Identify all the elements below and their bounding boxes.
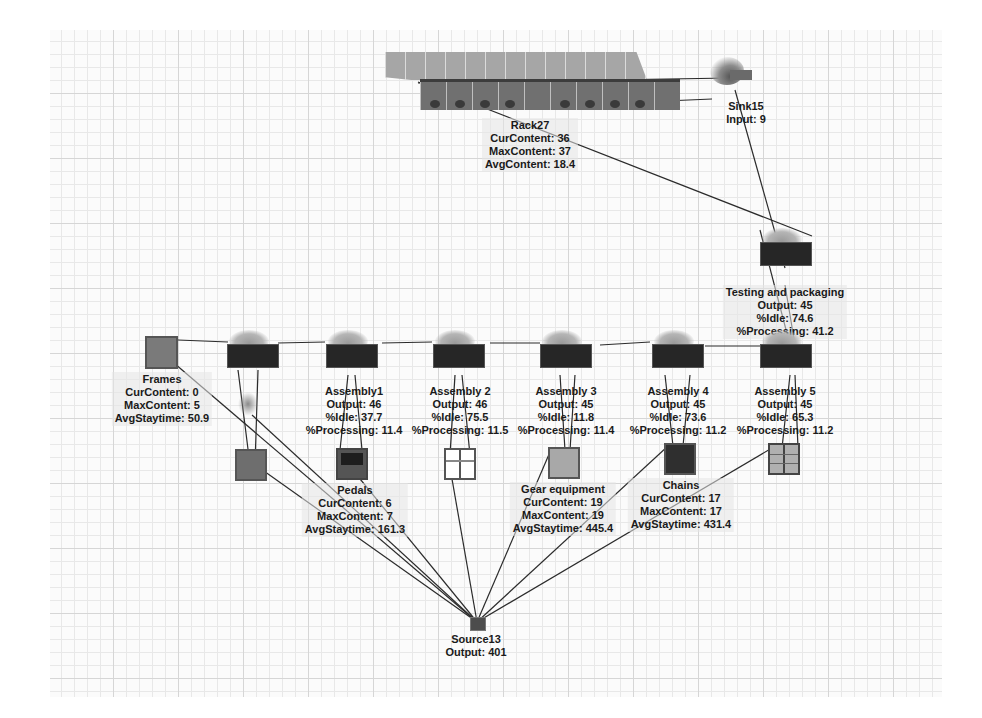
queue-node-unlabeled[interactable] (235, 449, 267, 481)
node-stat: Output: 401 (445, 646, 506, 659)
frames-label: Frames CurContent: 0 MaxContent: 5 AvgSt… (112, 372, 212, 426)
node-stat: MaxContent: 5 (115, 399, 209, 412)
queue-content (341, 453, 363, 465)
chains-label: Chains CurContent: 17 MaxContent: 17 Avg… (628, 478, 734, 532)
sink-label: Sink15 Input: 9 (723, 99, 769, 127)
processor-body (326, 344, 378, 368)
node-name: Assembly1 (306, 385, 403, 398)
processor-body (540, 344, 592, 368)
assembly2-queue-node[interactable] (444, 448, 476, 480)
node-stat: %Idle: 11.8 (518, 411, 615, 424)
rack-wheel-icon (635, 100, 645, 108)
rack-node[interactable] (385, 52, 655, 114)
node-stat: CurContent: 19 (513, 496, 613, 509)
operator-icon (238, 392, 258, 416)
node-stat: %Idle: 73.6 (630, 411, 727, 424)
node-stat: CurContent: 0 (115, 386, 209, 399)
source-label: Source13 Output: 401 (442, 632, 509, 660)
node-stat: %Processing: 11.5 (412, 424, 509, 437)
rack-wheel-icon (585, 100, 595, 108)
assembly3-node[interactable] (540, 330, 592, 370)
sink-node[interactable] (710, 57, 754, 87)
node-name: Assembly 5 (737, 385, 834, 398)
processor-body (760, 344, 812, 368)
rack-wheel-icon (480, 100, 490, 108)
node-name: Assembly 3 (518, 385, 615, 398)
node-name: Gear equipment (513, 483, 613, 496)
rack-wheel-icon (430, 100, 440, 108)
node-stat: Output: 45 (726, 299, 844, 312)
node-stat: %Processing: 11.4 (518, 424, 615, 437)
node-stat: MaxContent: 17 (631, 505, 731, 518)
queue-divider (770, 454, 798, 455)
queue-divider (459, 450, 461, 478)
node-stat: %Idle: 37.7 (306, 411, 403, 424)
assembly2-node[interactable] (433, 330, 485, 370)
processor-body (760, 242, 812, 266)
node-name: Frames (115, 373, 209, 386)
node-stat: MaxContent: 19 (513, 509, 613, 522)
rack-shelves (385, 52, 647, 80)
queue-divider (446, 460, 474, 462)
node-name: Chains (631, 479, 731, 492)
node-name: Source13 (445, 633, 506, 646)
node-name: Sink15 (726, 100, 766, 113)
assembly4-label: Assembly 4 Output: 45 %Idle: 73.6 %Proce… (627, 384, 730, 438)
testing-packaging-node[interactable] (760, 228, 812, 268)
node-name: Testing and packaging (726, 286, 844, 299)
node-stat: %Processing: 11.2 (737, 424, 834, 437)
node-name: Assembly 4 (630, 385, 727, 398)
assembly5-label: Assembly 5 Output: 45 %Idle: 65.3 %Proce… (734, 384, 837, 438)
node-stat: Output: 46 (412, 398, 509, 411)
node-stat: Input: 9 (726, 113, 766, 126)
assembly3-label: Assembly 3 Output: 45 %Idle: 11.8 %Proce… (515, 384, 618, 438)
processor-body (652, 344, 704, 368)
queue-divider (770, 463, 798, 464)
source-node[interactable] (470, 617, 486, 631)
pedals-label: Pedals CurContent: 6 MaxContent: 7 AvgSt… (302, 483, 408, 537)
assembly5-node[interactable] (760, 330, 812, 370)
queue-divider (783, 445, 785, 473)
node-stat: %Idle: 65.3 (737, 411, 834, 424)
node-name: Pedals (305, 484, 405, 497)
node-stat: %Processing: 11.2 (630, 424, 727, 437)
assembly1-label: Assembly1 Output: 46 %Idle: 37.7 %Proces… (303, 384, 406, 438)
frames-node[interactable] (145, 336, 178, 369)
node-stat: CurContent: 36 (485, 132, 575, 145)
node-stat: Output: 45 (518, 398, 615, 411)
node-stat: %Idle: 75.5 (412, 411, 509, 424)
node-stat: %Processing: 11.4 (306, 424, 403, 437)
node-stat: AvgContent: 18.4 (485, 158, 575, 171)
assembly2-label: Assembly 2 Output: 46 %Idle: 75.5 %Proce… (409, 384, 512, 438)
pedals-node[interactable] (336, 448, 368, 480)
node-stat: AvgStaytime: 50.9 (115, 412, 209, 425)
node-name: Rack27 (485, 119, 575, 132)
node-stat: AvgStaytime: 431.4 (631, 518, 731, 531)
gear-equipment-label: Gear equipment CurContent: 19 MaxContent… (510, 482, 616, 536)
rack-wheel-icon (505, 100, 515, 108)
rack-wheel-icon (610, 100, 620, 108)
node-stat: Output: 46 (306, 398, 403, 411)
rack-label: Rack27 CurContent: 36 MaxContent: 37 Avg… (482, 118, 578, 172)
node-stat: Output: 45 (737, 398, 834, 411)
node-stat: %Idle: 74.6 (726, 312, 844, 325)
assembly1-node[interactable] (326, 330, 378, 370)
node-stat: Output: 45 (630, 398, 727, 411)
processor-body (227, 344, 279, 368)
chains-node[interactable] (664, 443, 696, 475)
assembly4-node[interactable] (652, 330, 704, 370)
assembly5-queue-node[interactable] (768, 443, 800, 475)
gear-equipment-node[interactable] (548, 447, 580, 479)
node-stat: MaxContent: 37 (485, 145, 575, 158)
node-stat: CurContent: 6 (305, 497, 405, 510)
assembly1-feeder-node[interactable] (227, 330, 279, 370)
node-name: Assembly 2 (412, 385, 509, 398)
node-stat: MaxContent: 7 (305, 510, 405, 523)
node-stat: CurContent: 17 (631, 492, 731, 505)
rack-wheel-icon (455, 100, 465, 108)
rack-wheel-icon (560, 100, 570, 108)
sink-body (730, 70, 752, 80)
processor-body (433, 344, 485, 368)
node-stat: AvgStaytime: 445.4 (513, 522, 613, 535)
node-stat: AvgStaytime: 161.3 (305, 523, 405, 536)
